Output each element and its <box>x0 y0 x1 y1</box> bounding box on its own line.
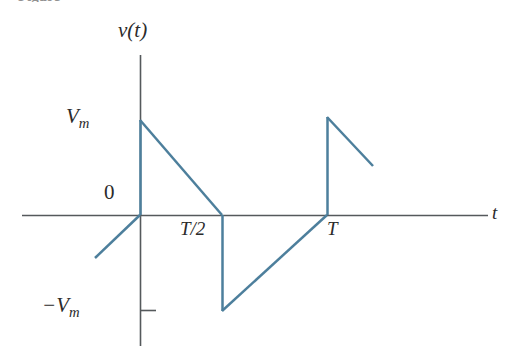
y-axis-label: v(t) <box>118 20 147 41</box>
label-v-min-subscript: m <box>69 304 80 320</box>
signal-trace <box>95 117 373 311</box>
label-v-min: −Vm <box>42 295 80 319</box>
segment-pre-origin-ramp <box>95 215 140 258</box>
label-v-min-base: −V <box>42 293 69 317</box>
x-axis-label: t <box>492 203 497 222</box>
label-zero: 0 <box>104 182 115 203</box>
label-v-max: Vm <box>66 106 89 130</box>
waveform-figure: Figure v(t) Vm 0 −Vm T/2 T t <box>0 0 520 360</box>
label-period: T <box>327 219 338 238</box>
label-v-max-base: V <box>66 104 79 128</box>
label-half-period: T/2 <box>180 219 205 238</box>
segment-falling-ramp-2 <box>327 117 373 166</box>
label-v-max-subscript: m <box>79 115 90 131</box>
segment-falling-ramp-1 <box>140 120 222 215</box>
segment-rising-ramp-1 <box>222 215 327 311</box>
